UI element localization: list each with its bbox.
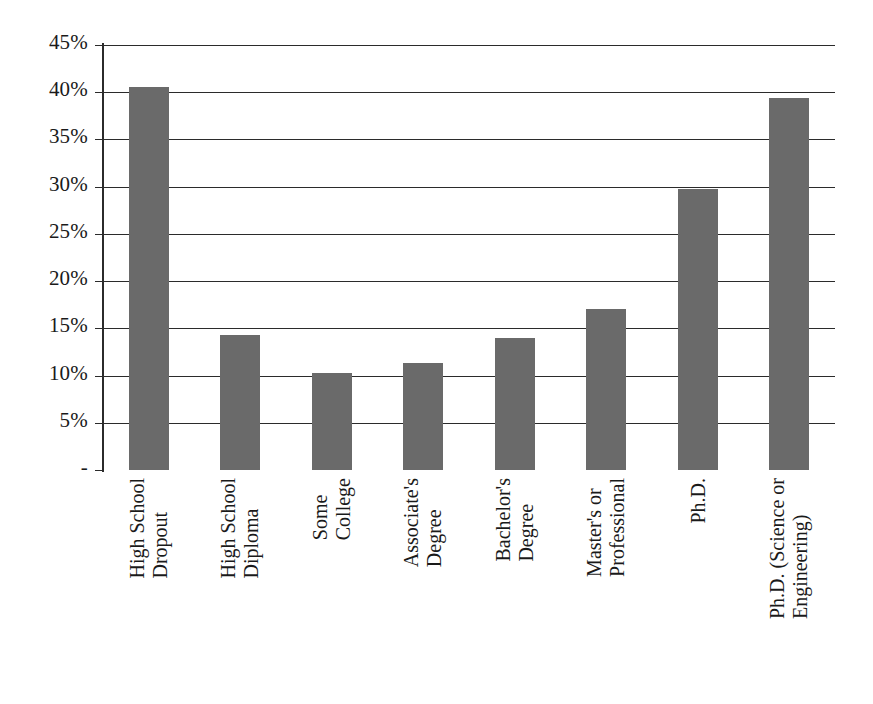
x-axis-label-slot: SomeCollege [286, 478, 378, 704]
y-tick-label: 30% [0, 174, 88, 195]
x-axis-label: Ph.D. (Science orEngineering) [766, 478, 812, 619]
x-axis-label-slot: Bachelor'sDegree [469, 478, 561, 704]
y-tick-label: - [0, 457, 88, 478]
gridline-30 [103, 187, 835, 188]
y-tick-label: 15% [0, 315, 88, 336]
x-axis-label-slot: Ph.D. [652, 478, 744, 704]
y-tick-label: 40% [0, 79, 88, 100]
x-axis-label-line: Professional [606, 478, 629, 577]
x-axis-label-slot: Ph.D. (Science orEngineering) [744, 478, 836, 704]
x-axis-label-line: High School [217, 478, 240, 579]
x-axis-label: Associate'sDegree [400, 478, 446, 567]
y-tick-label: 10% [0, 363, 88, 384]
x-axis-label: Ph.D. [686, 478, 709, 524]
x-axis-label: Bachelor'sDegree [492, 478, 538, 562]
x-axis-label: High SchoolDropout [126, 478, 172, 579]
x-axis-label-line: Ph.D. (Science or [766, 478, 789, 619]
x-axis-labels: High SchoolDropoutHigh SchoolDiplomaSome… [103, 478, 835, 704]
x-axis-label-line: Ph.D. [686, 478, 709, 524]
y-tick-label: 35% [0, 126, 88, 147]
x-axis-label-line: Diploma [240, 478, 263, 579]
x-axis-label-line: Master's or [583, 478, 606, 577]
x-axis-label-line: Some [309, 478, 332, 540]
y-tick-label: 45% [0, 32, 88, 53]
gridline-25 [103, 234, 835, 235]
x-axis-label-line: High School [126, 478, 149, 579]
gridline-40 [103, 92, 835, 93]
y-tick-label: 25% [0, 221, 88, 242]
x-axis-label-slot: Master's orProfessional [561, 478, 653, 704]
x-axis-label-slot: Associate'sDegree [378, 478, 470, 704]
bar [312, 373, 352, 470]
x-axis-label-slot: High SchoolDropout [103, 478, 195, 704]
y-axis-labels: -5%10%15%20%25%30%35%40%45% [0, 0, 88, 704]
y-tick-label: 20% [0, 268, 88, 289]
bar [495, 338, 535, 470]
x-axis-label: SomeCollege [309, 478, 355, 540]
x-axis-label-line: Bachelor's [492, 478, 515, 562]
gridline-20 [103, 281, 835, 282]
x-axis-label-line: Degree [423, 478, 446, 567]
gridline-35 [103, 139, 835, 140]
x-axis-label-line: Engineering) [789, 478, 812, 619]
x-axis-label-line: Degree [515, 478, 538, 562]
gridline-5 [103, 423, 835, 424]
bar-chart: -5%10%15%20%25%30%35%40%45% High SchoolD… [0, 0, 873, 704]
y-tickmark [95, 470, 104, 471]
gridline-10 [103, 376, 835, 377]
y-tick-label: 5% [0, 410, 88, 431]
x-axis-label-line: Associate's [400, 478, 423, 567]
bar [403, 363, 443, 470]
bar [129, 87, 169, 470]
bar [220, 335, 260, 470]
bar [678, 189, 718, 470]
plot-area [103, 45, 835, 470]
x-axis-label: Master's orProfessional [583, 478, 629, 577]
gridline-45 [103, 45, 835, 46]
gridline-15 [103, 328, 835, 329]
bar [586, 309, 626, 470]
bar [769, 98, 809, 470]
x-axis-label: High SchoolDiploma [217, 478, 263, 579]
x-axis-label-line: College [332, 478, 355, 540]
x-axis-label-slot: High SchoolDiploma [195, 478, 287, 704]
x-axis-label-line: Dropout [149, 478, 172, 579]
